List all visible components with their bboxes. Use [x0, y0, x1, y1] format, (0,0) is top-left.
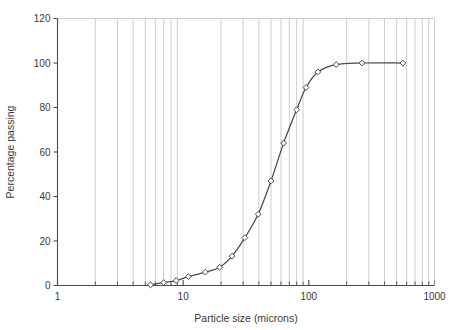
- particle-size-distribution-chart: 020406080100120 1101001000 Particle size…: [0, 0, 461, 330]
- x-tick-label: 100: [300, 291, 317, 302]
- x-tick-label: 1: [55, 291, 61, 302]
- y-tick-label: 120: [34, 13, 51, 24]
- chart-container: 020406080100120 1101001000 Particle size…: [0, 0, 461, 330]
- y-tick-label: 60: [39, 147, 51, 158]
- y-tick-label: 80: [39, 102, 51, 113]
- chart-background: [0, 0, 461, 330]
- x-tick-label: 1000: [423, 291, 446, 302]
- y-tick-label: 20: [39, 236, 51, 247]
- y-tick-label: 0: [45, 280, 51, 291]
- x-tick-label: 10: [178, 291, 190, 302]
- y-axis-title: Percentage passing: [4, 105, 16, 198]
- x-axis-title: Particle size (microns): [194, 312, 297, 324]
- y-tick-label: 100: [34, 58, 51, 69]
- y-tick-label: 40: [39, 191, 51, 202]
